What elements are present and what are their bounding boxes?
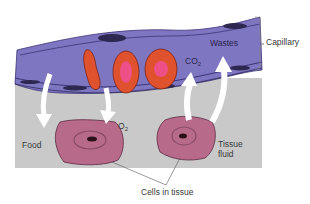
tissue-fluid-label: Tissue fluid: [218, 139, 243, 159]
tissue-cell-right-nucleus: [179, 134, 187, 139]
food-label: Food: [22, 140, 41, 150]
co2-label-sub: 2: [198, 61, 201, 67]
capillary-diagram: [0, 0, 310, 204]
co2-label: CO2: [185, 56, 201, 69]
endothelial-nucleus: [98, 34, 126, 42]
red-blood-cell-oval-center: [120, 61, 132, 83]
o2-label-sub: 2: [125, 126, 128, 132]
red-blood-cell-round-center: [154, 61, 168, 77]
co2-label-main: CO: [185, 56, 198, 66]
tissue-cell-right: [157, 116, 215, 160]
wastes-label: Wastes: [210, 38, 238, 48]
endothelial-nucleus: [230, 66, 250, 71]
endothelial-nucleus: [63, 86, 87, 91]
o2-label: O2: [118, 121, 128, 134]
tissue-fluid-label-line1: Tissue: [218, 139, 243, 149]
tissue-cell-left-nucleus: [87, 137, 97, 142]
endothelial-nucleus: [20, 80, 40, 84]
o2-label-main: O: [118, 121, 125, 131]
endothelial-nucleus: [223, 23, 247, 29]
cells-in-tissue-label: Cells in tissue: [141, 187, 193, 197]
tissue-cell-left: [55, 120, 123, 165]
capillary-label: Capillary: [266, 37, 299, 47]
tissue-fluid-label-line2: fluid: [218, 149, 243, 159]
